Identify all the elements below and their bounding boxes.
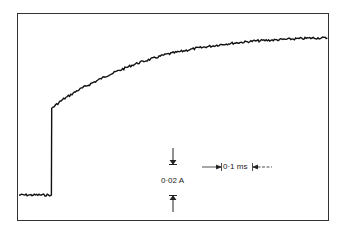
plot-frame — [18, 14, 329, 221]
time-scale-label: 0·1 ms — [223, 162, 247, 171]
current-scale-label: 0·02 A — [161, 176, 184, 185]
current-trace — [19, 37, 327, 196]
oscilloscope-figure — [0, 0, 339, 231]
